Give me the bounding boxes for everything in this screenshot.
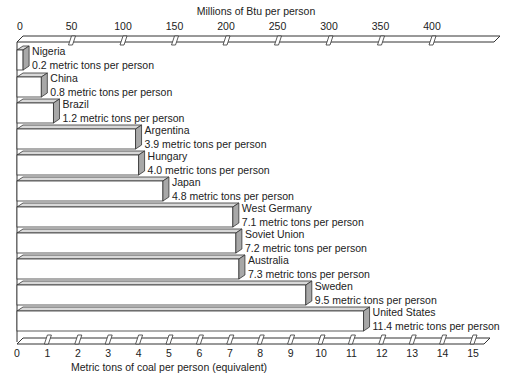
top-axis-tick-label: 350 — [372, 20, 390, 32]
bar-value-label: 7.3 metric tons per person — [248, 268, 370, 280]
bar-side-face — [23, 46, 29, 70]
bar-front-face — [17, 129, 136, 149]
bar-side-face — [136, 125, 142, 149]
bar-value-label: 11.4 metric tons per person — [373, 320, 500, 332]
bottom-axis-tick-label: 4 — [136, 347, 142, 359]
bar-side-face — [53, 99, 59, 123]
bar-front-face — [17, 155, 139, 175]
bar-front-face — [17, 50, 23, 70]
bar-country-label: Japan — [172, 176, 201, 188]
bar-front-face — [17, 77, 41, 97]
bar-side-face — [236, 229, 242, 253]
bar-country-label: Soviet Union — [245, 228, 305, 240]
bar-country-label: Brazil — [62, 98, 88, 110]
top-axis-tick-label: 0 — [17, 20, 23, 32]
bar-value-label: 7.2 metric tons per person — [245, 242, 367, 254]
bar-side-face — [233, 203, 239, 227]
bottom-axis-title: Metric tons of coal per person (equivale… — [71, 361, 267, 373]
bar-value-label: 0.2 metric tons per person — [32, 59, 154, 71]
bottom-axis-tick-label: 11 — [346, 347, 357, 359]
bar-side-face — [163, 177, 169, 201]
bar-top-face — [17, 125, 142, 129]
bar-country-label: Australia — [248, 254, 289, 266]
bar-top-face — [17, 177, 169, 181]
bottom-axis-tick-label: 2 — [75, 347, 81, 359]
bar-top-face — [17, 203, 239, 207]
bottom-axis-tick-label: 10 — [315, 347, 327, 359]
bar-country-label: Hungary — [148, 150, 188, 162]
bar-side-face — [41, 73, 47, 97]
bar-value-label: 4.0 metric tons per person — [148, 164, 270, 176]
bottom-axis-tick-label: 12 — [376, 347, 388, 359]
bar-value-label: 7.1 metric tons per person — [242, 216, 364, 228]
energy-consumption-chart: 050100150200250300350400Millions of Btu … — [0, 0, 508, 383]
bar-country-label: Sweden — [315, 280, 353, 292]
bar-country-label: Nigeria — [32, 45, 65, 57]
bar-front-face — [17, 233, 236, 253]
bar-front-face — [17, 207, 233, 227]
bar-front-face — [17, 103, 53, 123]
bottom-axis-tick-label: 14 — [437, 347, 449, 359]
bottom-axis-tick-label: 3 — [105, 347, 111, 359]
bar-top-face — [17, 229, 242, 233]
bottom-axis-tick-label: 7 — [227, 347, 233, 359]
bar-value-label: 0.8 metric tons per person — [50, 86, 172, 98]
top-axis-tick-label: 100 — [114, 20, 132, 32]
top-axis-tick-label: 400 — [423, 20, 441, 32]
bar-side-face — [239, 255, 245, 279]
bottom-axis-tick-label: 15 — [467, 347, 479, 359]
bar-country-label: United States — [373, 306, 436, 318]
top-axis-tick-label: 150 — [166, 20, 184, 32]
bar-front-face — [17, 181, 163, 201]
bar-value-label: 4.8 metric tons per person — [172, 190, 294, 202]
bar-side-face — [139, 151, 145, 175]
bar-top-face — [17, 281, 312, 285]
bottom-axis-tick-label: 1 — [44, 347, 50, 359]
top-axis-tick-label: 300 — [320, 20, 338, 32]
bar-front-face — [17, 259, 239, 279]
bottom-axis-tick-label: 13 — [406, 347, 418, 359]
bar-country-label: West Germany — [242, 202, 312, 214]
top-axis-title: Millions of Btu per person — [197, 5, 315, 17]
bottom-axis-tick-label: 9 — [288, 347, 294, 359]
bottom-axis-tick-label: 6 — [196, 347, 202, 359]
bottom-axis-tick-label: 8 — [257, 347, 263, 359]
bar-value-label: 9.5 metric tons per person — [315, 294, 437, 306]
top-axis-strip — [17, 36, 500, 42]
bar-value-label: 1.2 metric tons per person — [62, 112, 184, 124]
bar-country-label: Argentina — [145, 124, 190, 136]
bar-top-face — [17, 151, 145, 155]
top-axis-tick-label: 200 — [217, 20, 235, 32]
bar-front-face — [17, 285, 306, 305]
top-axis-tick-label: 50 — [66, 20, 78, 32]
bottom-axis-tick-label: 5 — [166, 347, 172, 359]
bar-value-label: 3.9 metric tons per person — [145, 138, 267, 150]
bar-front-face — [17, 311, 364, 331]
top-axis-tick-label: 250 — [269, 20, 287, 32]
bar-country-label: China — [50, 72, 77, 84]
bottom-axis-strip — [17, 338, 490, 344]
bar-top-face — [17, 99, 59, 103]
bar-top-face — [17, 255, 245, 259]
bar-top-face — [17, 307, 370, 311]
bar-side-face — [306, 281, 312, 305]
bottom-axis-tick-label: 0 — [14, 347, 20, 359]
bar-side-face — [364, 307, 370, 331]
